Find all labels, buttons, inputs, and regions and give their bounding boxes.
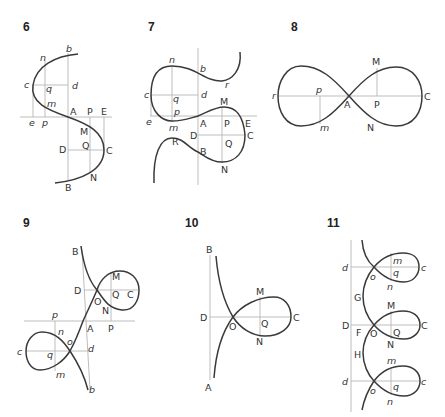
figure-9-label-M: M: [112, 271, 120, 282]
figure-9-label-P: P: [108, 323, 114, 334]
figure-11-label-D: D: [342, 320, 349, 331]
figure-6-label-m: m: [47, 98, 56, 109]
figure-7-label-d: d: [201, 89, 208, 100]
figure-9-label-N: N: [102, 305, 109, 316]
figure-9-label-o: o: [67, 336, 73, 347]
figure-9-label-C: C: [127, 289, 134, 300]
figure-6-label-e: e: [29, 117, 35, 128]
figure-10-label-M: M: [256, 286, 264, 297]
figure-9-curve: [26, 246, 139, 390]
figure-11-label-q-bottom: q: [393, 381, 399, 392]
figure-6-label-M: M: [80, 126, 88, 137]
figure-7-label-N: N: [221, 164, 228, 175]
figure-10-label-D: D: [200, 312, 207, 323]
figure-9-label-d: d: [88, 343, 95, 354]
figure-6-label-c: c: [24, 79, 30, 90]
figure-11-label-Q: Q: [393, 327, 400, 338]
figure-10-label-O: O: [229, 321, 236, 332]
figure-11-label-o-top: o: [370, 271, 376, 282]
figure-6-label-N: N: [90, 172, 97, 183]
figure-8: 8 M r p A P C m N: [272, 20, 431, 133]
figure-11-label-n-bottom: n: [387, 396, 393, 407]
figure-11-label-m-top: m: [393, 255, 402, 266]
figure-8-label-p: p: [315, 84, 322, 95]
figure-11-number: 11: [327, 216, 340, 230]
figure-9-label-O: O: [94, 296, 101, 307]
figure-8-label-M: M: [372, 56, 380, 67]
figure-9-label-Q: Q: [112, 289, 119, 300]
figure-7-label-p: p: [173, 106, 180, 117]
figure-6-label-D: D: [59, 144, 66, 155]
figure-9-label-q: q: [47, 349, 53, 360]
figure-8-label-m: m: [320, 122, 329, 133]
figure-7-number: 7: [148, 20, 155, 34]
figure-8-label-P: P: [374, 99, 380, 110]
figure-11-label-m-bottom: m: [387, 355, 396, 366]
figure-10-label-A: A: [205, 382, 212, 393]
figure-8-label-r: r: [272, 90, 277, 101]
figure-7-label-n: n: [169, 54, 175, 65]
figure-11-label-n-top: n: [387, 281, 393, 292]
figure-8-label-A: A: [344, 99, 351, 110]
figure-7-label-r: r: [225, 79, 230, 90]
figure-7-label-b: b: [200, 63, 206, 74]
figure-6-label-p: p: [41, 117, 48, 128]
figure-11-label-d-bottom: d: [342, 376, 349, 387]
figure-7-label-q: q: [173, 93, 179, 104]
figure-11-label-G: G: [354, 292, 361, 303]
figure-6-label-E: E: [101, 106, 107, 117]
figure-6-label-d: d: [72, 80, 79, 91]
figure-10-label-N: N: [256, 336, 263, 347]
figure-7-label-R: R: [172, 136, 179, 147]
figure-7-label-P: P: [224, 118, 230, 129]
figure-11-label-N: N: [387, 339, 394, 350]
figure-9-label-p: p: [51, 309, 58, 320]
figure-11-label-F: F: [356, 327, 361, 338]
figure-7-label-M: M: [220, 96, 228, 107]
figure-6-label-C: C: [106, 145, 113, 156]
figure-11-label-d-top: d: [342, 262, 349, 273]
figure-7-label-C: C: [247, 130, 254, 141]
figure-6: 6 b n c q d m e p A P E M Q D C N B: [20, 20, 113, 193]
figure-9-label-n: n: [58, 326, 64, 337]
figure-11-label-c-top: c: [421, 262, 427, 273]
figure-6-label-B: B: [65, 182, 72, 193]
figure-6-number: 6: [23, 20, 30, 34]
figure-8-label-N: N: [367, 122, 374, 133]
figure-9-label-D: D: [74, 285, 81, 296]
figure-9-label-A: A: [87, 323, 94, 334]
figure-7-label-m: m: [169, 122, 178, 133]
figure-6-label-Q: Q: [82, 140, 89, 151]
figure-7-label-B: B: [200, 146, 207, 157]
figure-11-label-c-bottom: c: [421, 376, 427, 387]
figure-9-label-b: b: [89, 384, 95, 395]
figure-7-label-Q: Q: [225, 138, 232, 149]
figure-10-label-C: C: [293, 312, 300, 323]
figure-6-label-A: A: [70, 106, 77, 117]
figure-6-label-q: q: [46, 83, 52, 94]
figure-10: 10 B M D O Q C N A: [185, 216, 300, 393]
figure-10-number: 10: [185, 216, 199, 230]
figure-11-label-M: M: [387, 300, 395, 311]
figure-11-label-H: H: [354, 349, 361, 360]
curve-figures-canvas: 6 b n c q d m e p A P E M Q D C N B 7: [0, 0, 445, 417]
figure-8-number: 8: [291, 20, 298, 34]
figure-7: 7 n b r c q d M p e m A P E D C R Q B N: [144, 20, 257, 185]
figure-7-label-E: E: [245, 118, 251, 129]
figure-7-label-e: e: [146, 116, 152, 127]
figure-9-number: 9: [23, 216, 30, 230]
figure-9-label-c: c: [17, 346, 23, 357]
figure-7-label-D: D: [190, 130, 197, 141]
figure-8-label-C: C: [424, 91, 431, 102]
figure-10-label-B: B: [206, 244, 213, 255]
figure-7-label-c: c: [144, 89, 150, 100]
figure-11-label-q-top: q: [393, 267, 399, 278]
figure-6-label-P: P: [87, 106, 93, 117]
figure-7-label-A: A: [200, 118, 207, 129]
figure-9-label-m: m: [56, 369, 65, 380]
figure-9: 9 B M D O Q C N p A P n o c q d m b: [17, 216, 139, 395]
figure-11-label-O: O: [370, 328, 377, 339]
figure-6-label-b: b: [66, 43, 72, 54]
figure-11: 11 d m c o q n G M D F O Q C N H m d c o…: [327, 216, 428, 412]
figure-9-label-B: B: [72, 246, 79, 257]
